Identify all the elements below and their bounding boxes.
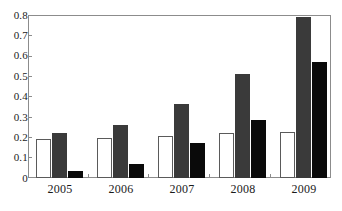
bar-2007-series-2 xyxy=(174,104,189,178)
y-tick-mark-0.4 xyxy=(28,96,32,97)
x-tick-mark-0 xyxy=(88,174,89,178)
y-tick-label-0.7: 0.7 xyxy=(4,30,28,41)
bar-2008-series-1 xyxy=(219,133,234,178)
y-tick-label-0.5: 0.5 xyxy=(4,71,28,82)
y-tick-label-0.2: 0.2 xyxy=(4,132,28,143)
x-tick-label-2009: 2009 xyxy=(277,182,331,197)
bar-chart: 0.8 0.7 0.6 0.5 0.4 0.3 0.2 0.1 0 xyxy=(0,0,342,211)
y-tick-mark-0.1 xyxy=(28,157,32,158)
y-tick-label-0.1: 0.1 xyxy=(4,152,28,163)
bar-2009-series-3 xyxy=(312,62,327,178)
bar-2006-series-3 xyxy=(129,164,144,178)
bar-2005-series-1 xyxy=(36,139,51,178)
bar-2005-series-2 xyxy=(52,133,67,178)
bar-2007-series-1 xyxy=(158,136,173,178)
bar-2008-series-3 xyxy=(251,120,266,178)
y-tick-mark-0.5 xyxy=(28,76,32,77)
y-tick-label-0: 0 xyxy=(4,173,28,184)
x-tick-mark-3 xyxy=(270,174,271,178)
bar-2009-series-1 xyxy=(280,132,295,178)
x-tick-label-2007: 2007 xyxy=(155,182,209,197)
y-tick-label-0.8: 0.8 xyxy=(4,10,28,21)
bar-2006-series-2 xyxy=(113,125,128,178)
bar-2007-series-3 xyxy=(190,143,205,178)
x-tick-mark-1 xyxy=(148,174,149,178)
bar-2009-series-2 xyxy=(296,17,311,178)
y-tick-mark-0.6 xyxy=(28,56,32,57)
x-tick-label-2006: 2006 xyxy=(94,182,148,197)
x-tick-mark-2 xyxy=(209,174,210,178)
bar-2006-series-1 xyxy=(97,138,112,178)
y-tick-label-0.4: 0.4 xyxy=(4,91,28,102)
y-tick-mark-0.2 xyxy=(28,137,32,138)
y-tick-mark-0.8 xyxy=(28,15,32,16)
y-tick-mark-0.7 xyxy=(28,35,32,36)
x-tick-label-2005: 2005 xyxy=(33,182,87,197)
y-axis-tick-labels: 0.8 0.7 0.6 0.5 0.4 0.3 0.2 0.1 0 xyxy=(0,0,28,211)
y-tick-label-0.6: 0.6 xyxy=(4,50,28,61)
y-tick-label-0.3: 0.3 xyxy=(4,112,28,123)
bar-2005-series-3 xyxy=(68,171,83,178)
bar-2008-series-2 xyxy=(235,74,250,178)
y-tick-mark-0.3 xyxy=(28,117,32,118)
x-tick-label-2008: 2008 xyxy=(216,182,270,197)
y-tick-mark-0 xyxy=(28,177,32,178)
